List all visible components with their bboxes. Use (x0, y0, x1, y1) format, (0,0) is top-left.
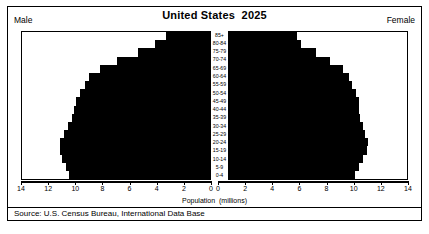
axis-tick-label: 8 (100, 185, 104, 192)
source-note: Source: U.S. Census Bureau, Internationa… (14, 209, 205, 218)
x-axis-female: 02468101214 (218, 181, 408, 197)
bar-row (219, 122, 407, 130)
male-bar-rows (22, 32, 210, 179)
female-bar-55-59 (219, 81, 352, 89)
bar-row (219, 65, 407, 73)
population-pyramid-figure: United States 2025 Male Female 85+80-847… (0, 0, 429, 234)
legend-label-female: Female (387, 15, 415, 25)
male-bar-0-4 (69, 171, 210, 179)
age-group-label: 5-9 (211, 164, 228, 172)
male-bar-65-69 (100, 65, 210, 73)
bar-row (22, 73, 210, 81)
bar-row (219, 57, 407, 65)
age-group-label: 75-79 (211, 48, 228, 56)
axis-tick-label: 2 (182, 185, 186, 192)
bar-row (219, 32, 407, 40)
male-bar-35-39 (72, 114, 210, 122)
female-bar-5-9 (219, 163, 359, 171)
axis-tick-label: 6 (128, 185, 132, 192)
bar-row (22, 146, 210, 154)
bar-row (219, 155, 407, 163)
bar-row (22, 138, 210, 146)
female-panel (218, 31, 408, 180)
axis-tick-label: 10 (71, 185, 79, 192)
female-bar-80-84 (219, 40, 301, 48)
axis-tick-label: 4 (155, 185, 159, 192)
bar-row (219, 146, 407, 154)
x-axis-male: 14121086420 (21, 181, 211, 197)
bar-row (22, 40, 210, 48)
bar-row (219, 130, 407, 138)
age-group-label: 45-49 (211, 97, 228, 105)
age-group-label: 65-69 (211, 64, 228, 72)
male-bar-45-49 (76, 97, 210, 105)
bar-row (219, 89, 407, 97)
bar-row (22, 81, 210, 89)
female-bar-65-69 (219, 65, 343, 73)
female-bar-25-29 (219, 130, 365, 138)
bar-row (22, 114, 210, 122)
axis-tick-label: 0 (216, 185, 220, 192)
axis-line (21, 181, 211, 183)
age-group-label: 40-44 (211, 106, 228, 114)
female-bar-10-14 (219, 155, 363, 163)
age-group-label: 30-34 (211, 122, 228, 130)
axis-tick-label: 0 (209, 185, 213, 192)
female-bar-0-4 (219, 171, 355, 179)
axis-tick-label: 4 (270, 185, 274, 192)
axis-tick-label: 2 (243, 185, 247, 192)
female-bar-45-49 (219, 97, 359, 105)
female-bar-35-39 (219, 114, 360, 122)
age-group-label: 55-59 (211, 81, 228, 89)
axis-tick-label: 14 (404, 185, 412, 192)
age-group-label: 0-4 (211, 172, 228, 180)
age-group-label: 50-54 (211, 89, 228, 97)
bar-row (219, 73, 407, 81)
female-bar-15-19 (219, 146, 367, 154)
age-group-axis: 85+80-8475-7970-7465-6960-6455-5950-5445… (211, 31, 228, 180)
chart-header: United States 2025 Male Female (8, 7, 421, 29)
bar-row (22, 97, 210, 105)
bar-row (22, 106, 210, 114)
axis-tick-label: 12 (44, 185, 52, 192)
female-bar-75-79 (219, 48, 316, 56)
male-panel (21, 31, 211, 180)
bar-row (22, 48, 210, 56)
axis-tick-label: 10 (350, 185, 358, 192)
bar-row (22, 57, 210, 65)
bar-row (22, 122, 210, 130)
age-group-label: 85+ (211, 31, 228, 39)
female-bar-50-54 (219, 89, 356, 97)
page-title: United States 2025 (8, 9, 421, 21)
bar-row (22, 32, 210, 40)
male-bar-10-14 (62, 155, 210, 163)
figure-frame: United States 2025 Male Female 85+80-847… (7, 6, 422, 221)
male-bar-75-79 (138, 48, 211, 56)
female-bar-30-34 (219, 122, 363, 130)
male-bar-20-24 (60, 138, 210, 146)
axis-line (218, 181, 408, 183)
bar-row (219, 81, 407, 89)
male-bar-50-54 (80, 89, 210, 97)
male-bar-70-74 (117, 57, 210, 65)
age-group-label: 15-19 (211, 147, 228, 155)
age-group-label: 80-84 (211, 39, 228, 47)
male-bar-55-59 (85, 81, 210, 89)
bar-row (22, 89, 210, 97)
bar-row (219, 40, 407, 48)
male-bar-60-64 (89, 73, 210, 81)
male-bar-30-34 (68, 122, 210, 130)
axis-tick-label: 8 (325, 185, 329, 192)
female-bar-rows (219, 32, 407, 179)
bar-row (219, 48, 407, 56)
bar-row (22, 155, 210, 163)
male-bar-25-29 (64, 130, 210, 138)
female-bar-60-64 (219, 73, 349, 81)
age-group-label: 70-74 (211, 56, 228, 64)
male-bar-40-44 (74, 106, 210, 114)
female-bar-85+ (219, 32, 297, 40)
female-bar-70-74 (219, 57, 330, 65)
axis-tick-label: 12 (377, 185, 385, 192)
age-group-label: 60-64 (211, 72, 228, 80)
female-bar-40-44 (219, 106, 359, 114)
